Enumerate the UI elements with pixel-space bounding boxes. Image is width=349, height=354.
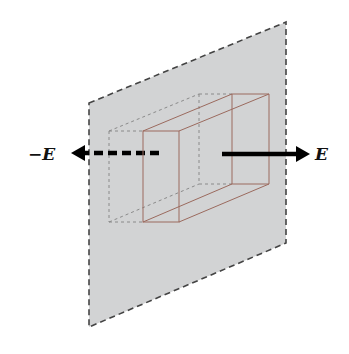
diagram-canvas: −E E bbox=[0, 0, 349, 354]
label-positive-field: E bbox=[314, 144, 329, 164]
arrowhead-right-icon bbox=[296, 146, 310, 162]
gauss-plane-diagram: −E E bbox=[0, 0, 349, 354]
label-negative-field: −E bbox=[28, 144, 56, 164]
arrowhead-left-icon bbox=[71, 145, 85, 161]
charged-plane bbox=[89, 22, 286, 327]
